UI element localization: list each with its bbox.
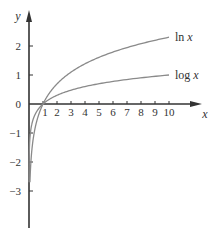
log-x-curve: [29, 75, 169, 182]
x-tick-label: 6: [110, 106, 116, 118]
y-tick-label: −2: [9, 156, 21, 168]
x-tick-label: 10: [164, 106, 176, 118]
y-tick-label: 0: [16, 98, 22, 110]
y-tick-label: −3: [9, 185, 21, 197]
y-axis-label: y: [14, 9, 21, 23]
x-axis-arrow-icon: [190, 101, 202, 107]
log-functions-chart: 12345678910−3−2−1012 ln xlog xxy: [0, 0, 217, 232]
y-tick-label: 2: [16, 40, 22, 52]
y-tick-label: −1: [9, 127, 21, 139]
x-tick-label: 3: [68, 106, 74, 118]
axis-ticks: 12345678910−3−2−1012: [9, 40, 175, 197]
x-tick-label: 4: [82, 106, 88, 118]
y-tick-label: 1: [16, 69, 22, 81]
x-tick-label: 7: [124, 106, 130, 118]
x-tick-label: 5: [96, 106, 102, 118]
log-x-label: log x: [175, 68, 199, 82]
x-axis-label: x: [201, 107, 208, 121]
x-tick-label: 9: [152, 106, 158, 118]
ln-x-label: ln x: [175, 30, 193, 44]
x-tick-label: 1: [42, 106, 48, 118]
x-tick-label: 2: [54, 106, 60, 118]
y-axis-arrow-icon: [26, 10, 32, 22]
x-tick-label: 8: [138, 106, 144, 118]
